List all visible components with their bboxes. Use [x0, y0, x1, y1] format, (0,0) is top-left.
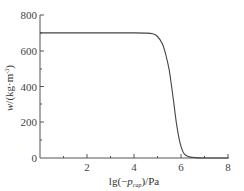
y-tick-400: 400: [21, 81, 38, 93]
y-tick-800: 800: [21, 9, 38, 21]
x-tick-2: 2: [84, 161, 90, 173]
x-tick-6: 6: [178, 161, 184, 173]
y-tick-0: 0: [32, 152, 38, 164]
y-axis: 800 600 400 200 0: [21, 9, 45, 164]
y-axis-label: w/(kg·m-3): [3, 65, 16, 111]
x-tick-4: 4: [131, 161, 137, 173]
x-axis: 2 4 6 8: [40, 154, 231, 173]
y-tick-200: 200: [21, 116, 38, 128]
chart: 800 600 400 200 0 2 4 6 8 lg(−pcap)/Pa w…: [0, 0, 244, 191]
x-tick-8: 8: [225, 161, 231, 173]
x-axis-label: lg(−pcap)/Pa: [109, 175, 159, 188]
y-tick-600: 600: [21, 45, 38, 57]
data-line: [40, 33, 228, 158]
